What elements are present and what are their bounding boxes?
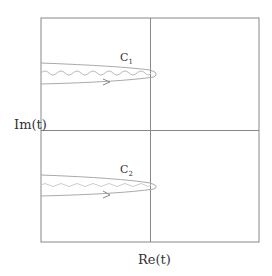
contour-c1 (41, 63, 156, 85)
branch-cut-c1 (41, 71, 151, 75)
contour-label-c1: C1 (120, 51, 133, 66)
y-axis-label: Im(t) (14, 117, 47, 132)
contour-c2 (41, 175, 156, 198)
arrow-icon (103, 191, 110, 198)
diagram-graphics (0, 0, 272, 276)
branch-cut-c2 (41, 184, 151, 187)
contour-label-c2: C2 (120, 163, 133, 178)
contour-diagram: C1 C2 Im(t) Re(t) (0, 0, 272, 276)
x-axis-label: Re(t) (138, 252, 171, 267)
